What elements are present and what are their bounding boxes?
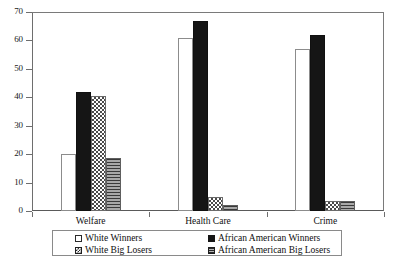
legend-swatch-african-american-winners bbox=[208, 235, 215, 242]
y-axis-tick-label: 30 bbox=[1, 121, 23, 130]
legend-entry-african-american-big-losers: African American Big Losers bbox=[208, 244, 330, 256]
legend-swatch-african-american-big-losers bbox=[208, 247, 215, 254]
y-axis-tick-label: 70 bbox=[1, 7, 23, 16]
y-axis-tick-label: 60 bbox=[1, 35, 23, 44]
x-axis-category-label: Crime bbox=[267, 216, 384, 227]
legend-label-white-big-losers: White Big Losers bbox=[85, 245, 152, 256]
bar-african-american-winners bbox=[76, 92, 91, 211]
bar-african-american-winners bbox=[310, 35, 325, 211]
bar-white-winners bbox=[295, 49, 310, 211]
legend-swatch-white-winners bbox=[75, 235, 82, 242]
legend-column-right: African American Winners African America… bbox=[208, 232, 330, 256]
legend-entry-african-american-winners: African American Winners bbox=[208, 232, 330, 244]
y-axis-tick-label: 50 bbox=[1, 64, 23, 73]
y-axis-tick bbox=[26, 97, 32, 98]
y-axis-tick-label: 40 bbox=[1, 92, 23, 101]
legend-entry-white-big-losers: White Big Losers bbox=[75, 244, 152, 256]
legend: White Winners White Big Losers African A… bbox=[52, 230, 342, 256]
bar-white-big-losers bbox=[91, 96, 106, 211]
y-axis-tick bbox=[26, 154, 32, 155]
bar-white-big-losers bbox=[208, 197, 223, 211]
bar-african-american-big-losers bbox=[223, 205, 238, 211]
bar-african-american-winners bbox=[193, 21, 208, 211]
legend-label-african-american-big-losers: African American Big Losers bbox=[218, 245, 330, 256]
y-axis-tick bbox=[26, 69, 32, 70]
x-axis-category-label: Health Care bbox=[149, 216, 266, 227]
y-axis-tick bbox=[26, 40, 32, 41]
legend-label-white-winners: White Winners bbox=[85, 233, 142, 244]
legend-column-left: White Winners White Big Losers bbox=[75, 232, 152, 256]
y-axis-tick-label: 20 bbox=[1, 149, 23, 158]
x-axis-end-tick bbox=[384, 212, 385, 217]
y-axis-tick bbox=[26, 183, 32, 184]
bar-african-american-big-losers bbox=[106, 158, 121, 211]
x-axis-end-tick bbox=[32, 212, 33, 217]
bar-african-american-big-losers bbox=[340, 201, 355, 211]
y-axis-tick-label: 0 bbox=[1, 206, 23, 215]
y-axis-tick bbox=[26, 12, 32, 13]
bar-white-winners bbox=[178, 38, 193, 211]
bar-white-winners bbox=[61, 154, 76, 211]
y-axis-tick bbox=[26, 126, 32, 127]
bar-white-big-losers bbox=[325, 201, 340, 211]
legend-label-african-american-winners: African American Winners bbox=[218, 233, 320, 244]
x-axis-category-label: Welfare bbox=[32, 216, 149, 227]
legend-entry-white-winners: White Winners bbox=[75, 232, 152, 244]
legend-swatch-white-big-losers bbox=[75, 247, 82, 254]
y-axis-tick-label: 10 bbox=[1, 178, 23, 187]
bar-chart-figure: 010203040506070WelfareHealth CareCrime W… bbox=[0, 0, 394, 265]
